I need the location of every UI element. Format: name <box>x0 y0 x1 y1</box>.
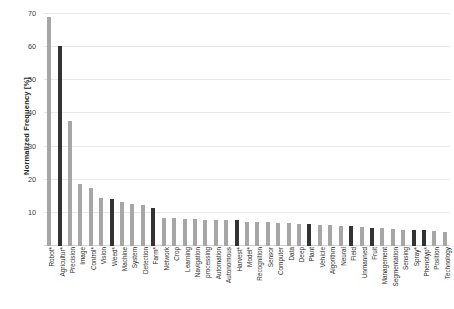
y-axis-tick-label: 30 <box>2 143 36 150</box>
x-label-slot: Field <box>346 247 356 309</box>
bar <box>443 232 447 246</box>
x-label-slot: Segmentation <box>388 247 398 309</box>
bar <box>58 46 62 247</box>
bar <box>370 228 374 246</box>
bar-slot <box>117 14 127 246</box>
x-label-slot: Position <box>429 247 439 309</box>
bar-slot <box>86 14 96 246</box>
x-label-slot: Precision <box>65 247 75 309</box>
x-axis-tick-labels: Robot*Agricultur*PrecisionImageControl*V… <box>44 247 450 309</box>
bar-slot <box>221 14 231 246</box>
bar-slot <box>252 14 262 246</box>
y-axis-tick-label: 50 <box>2 77 36 84</box>
bar <box>339 226 343 246</box>
x-label-slot: Spray* <box>408 247 418 309</box>
bar-slot <box>65 14 75 246</box>
bar <box>224 220 228 246</box>
x-label-slot: Computer <box>273 247 283 309</box>
x-label-slot: Fruit <box>367 247 377 309</box>
bar <box>120 202 124 246</box>
x-label-slot: Recognition <box>252 247 262 309</box>
x-label-slot: Automation <box>211 247 221 309</box>
y-axis-tick-label: 10 <box>2 209 36 216</box>
bar-slot <box>367 14 377 246</box>
bar <box>110 199 114 246</box>
bar-slot <box>179 14 189 246</box>
bar-slot <box>356 14 366 246</box>
x-label-slot: Agricultur* <box>54 247 64 309</box>
bar <box>412 230 416 246</box>
x-label-slot: Network <box>159 247 169 309</box>
x-label-slot: Learning <box>179 247 189 309</box>
bar-slot <box>315 14 325 246</box>
x-label-slot: Phenotyp* <box>419 247 429 309</box>
bar <box>245 222 249 246</box>
bar <box>47 17 51 246</box>
bar-slot <box>335 14 345 246</box>
bar-slot <box>294 14 304 246</box>
x-label-slot: Weed* <box>106 247 116 309</box>
x-label-slot: Management <box>377 247 387 309</box>
bar-slot <box>54 14 64 246</box>
bar <box>287 223 291 246</box>
bar-slot <box>325 14 335 246</box>
bar-slot <box>127 14 137 246</box>
x-label-slot: Algorithm <box>325 247 335 309</box>
bar <box>318 225 322 246</box>
bar <box>266 222 270 246</box>
bar <box>235 220 239 246</box>
y-axis-tick-labels: 10203040506070 <box>0 14 40 246</box>
x-label-slot: Autonomous <box>221 247 231 309</box>
bar-slot <box>377 14 387 246</box>
x-label-slot: Technology <box>440 247 450 309</box>
y-axis-tick-label: 70 <box>2 10 36 17</box>
bar-slot <box>346 14 356 246</box>
x-label-slot: Vehicle <box>315 247 325 309</box>
bar <box>193 219 197 246</box>
bar-slot <box>242 14 252 246</box>
bar <box>360 227 364 246</box>
bar <box>203 220 207 247</box>
bar-slot <box>419 14 429 246</box>
bar-slot <box>304 14 314 246</box>
bar <box>99 198 103 246</box>
bar <box>391 229 395 246</box>
x-label-slot: Navigation <box>190 247 200 309</box>
bar <box>422 230 426 246</box>
bar <box>130 204 134 246</box>
y-axis-tick-label: 40 <box>2 110 36 117</box>
x-label-slot: Plant <box>304 247 314 309</box>
x-label-slot: Data <box>283 247 293 309</box>
x-label-slot: Unmanned <box>356 247 366 309</box>
bar <box>141 205 145 246</box>
bar <box>89 188 93 246</box>
bar-slot <box>138 14 148 246</box>
bar-slot <box>190 14 200 246</box>
x-axis-tick-label: Technology <box>445 247 451 279</box>
bar <box>255 222 259 246</box>
x-label-slot: Image <box>75 247 85 309</box>
x-label-slot: System <box>127 247 137 309</box>
y-axis-tick-label: 20 <box>2 176 36 183</box>
bar <box>349 226 353 246</box>
bar <box>432 231 436 246</box>
bar-slot <box>211 14 221 246</box>
x-label-slot: Detection <box>138 247 148 309</box>
x-label-slot: Sensing <box>398 247 408 309</box>
bar-slot <box>44 14 54 246</box>
bar-slot <box>440 14 450 246</box>
x-label-slot: Farm* <box>148 247 158 309</box>
bar <box>276 223 280 246</box>
bar-slot <box>159 14 169 246</box>
bar-slot <box>429 14 439 246</box>
x-label-slot: Deep <box>294 247 304 309</box>
x-label-slot: Model* <box>242 247 252 309</box>
bar <box>78 184 82 246</box>
x-label-slot: Sensor <box>263 247 273 309</box>
x-label-slot: Harvest* <box>231 247 241 309</box>
x-label-slot: Machine <box>117 247 127 309</box>
bar <box>307 224 311 246</box>
bar <box>172 218 176 246</box>
bar <box>151 208 155 246</box>
x-label-slot: Neural <box>335 247 345 309</box>
